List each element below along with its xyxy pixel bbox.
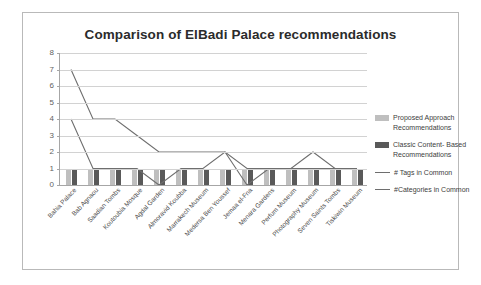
gridline <box>60 185 367 186</box>
gridline <box>60 152 367 153</box>
gridline <box>60 103 367 104</box>
legend-swatch-icon <box>375 115 389 121</box>
x-axis: Bahia PalaceBab AgnaouSaadian TombsKouto… <box>59 187 367 257</box>
legend-line-icon <box>375 172 390 173</box>
gridline <box>60 119 367 120</box>
y-tickmark <box>57 169 60 170</box>
legend-label: # Tags in Common <box>394 168 452 178</box>
legend-label: #Categories in Common <box>394 185 469 195</box>
y-tick-label: 8 <box>50 49 54 57</box>
chart-legend: Proposed Approach RecommendationsClassic… <box>375 113 481 202</box>
legend-item: #Categories in Common <box>375 185 481 195</box>
gridline <box>60 136 367 137</box>
y-tick-label: 1 <box>50 165 54 173</box>
legend-item: # Tags in Common <box>375 168 481 178</box>
legend-label: Classic Content- Based Recommendations <box>393 140 481 160</box>
legend-item: Classic Content- Based Recommendations <box>375 140 481 160</box>
y-tickmark <box>57 70 60 71</box>
chart-frame: Comparison of ElBadi Palace recommendati… <box>22 12 459 270</box>
y-tick-label: 4 <box>50 115 54 123</box>
y-tick-label: 7 <box>50 66 54 74</box>
y-tickmark <box>57 152 60 153</box>
y-tickmark <box>57 53 60 54</box>
y-axis: 012345678 <box>37 53 57 185</box>
legend-label: Proposed Approach Recommendations <box>393 113 481 133</box>
y-tickmark <box>57 136 60 137</box>
gridline <box>60 53 367 54</box>
y-tickmark <box>57 103 60 104</box>
y-tickmark <box>57 119 60 120</box>
y-tickmark <box>57 86 60 87</box>
gridline <box>60 70 367 71</box>
y-tick-label: 3 <box>50 132 54 140</box>
y-tick-label: 2 <box>50 148 54 156</box>
gridline <box>60 86 367 87</box>
y-tick-label: 0 <box>50 181 54 189</box>
plot-area <box>59 53 367 185</box>
legend-item: Proposed Approach Recommendations <box>375 113 481 133</box>
y-tickmark <box>57 185 60 186</box>
legend-swatch-icon <box>375 142 389 148</box>
y-tick-label: 6 <box>50 82 54 90</box>
plot-wrapper: 012345678 Bahia PalaceBab AgnaouSaadian … <box>37 53 367 203</box>
legend-line-icon <box>375 189 390 190</box>
chart-title: Comparison of ElBadi Palace recommendati… <box>23 27 458 42</box>
gridline <box>60 169 367 170</box>
y-tick-label: 5 <box>50 99 54 107</box>
